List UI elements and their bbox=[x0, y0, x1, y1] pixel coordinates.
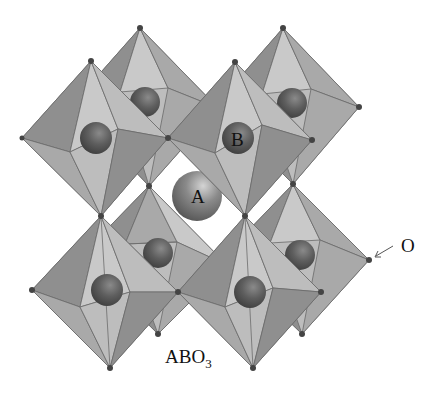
b-cation-sphere bbox=[234, 276, 266, 308]
perovskite-structure-diagram bbox=[0, 0, 442, 395]
oxygen-pointer-arrow bbox=[375, 246, 393, 257]
formula-main: ABO bbox=[165, 346, 205, 367]
formula-subscript: 3 bbox=[205, 356, 212, 371]
b-site-label: B bbox=[231, 130, 244, 149]
formula-label: ABO3 bbox=[165, 347, 212, 370]
b-cation-sphere bbox=[91, 274, 123, 306]
b-cation-sphere bbox=[80, 122, 112, 154]
oxygen-label: O bbox=[401, 236, 415, 255]
a-site-label: A bbox=[191, 187, 205, 206]
